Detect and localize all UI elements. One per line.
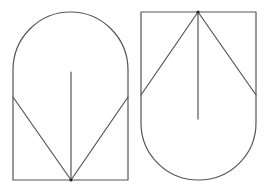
arch-down-apex-dot	[197, 11, 200, 14]
arch-up-apex-dot	[70, 179, 73, 182]
arch-up-left-diagonal	[13, 97, 71, 180]
arch-down-figure	[141, 11, 256, 181]
arch-down-right-diagonal	[198, 12, 256, 95]
arch-down-left-diagonal	[141, 12, 198, 95]
arch-up-right-diagonal	[71, 97, 128, 180]
diagram-canvas	[0, 0, 264, 193]
arch-up-figure	[13, 12, 128, 181]
